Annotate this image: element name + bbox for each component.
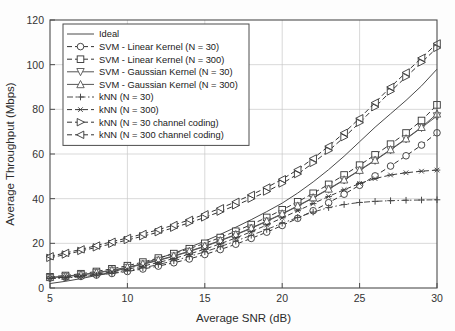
y-tick-label: 60 [32, 148, 44, 160]
x-tick-label: 20 [276, 292, 288, 304]
legend-label: SVM - Linear Kernel (N = 300) [99, 55, 224, 65]
x-tick-label: 25 [354, 292, 366, 304]
y-tick-label: 40 [32, 193, 44, 205]
legend-label: kNN (N = 30 channel coding) [99, 118, 219, 128]
x-tick-label: 15 [199, 292, 211, 304]
chart-figure: 51015202530020406080100120Average SNR (d… [0, 0, 455, 331]
legend-label: SVM - Linear Kernel (N = 30) [99, 42, 219, 52]
y-tick-label: 120 [26, 14, 44, 26]
y-axis-title: Average Throughput (Mbps) [4, 82, 16, 226]
legend-label: SVM - Gaussian Kernel (N = 300) [99, 80, 238, 90]
y-tick-label: 20 [32, 237, 44, 249]
y-tick-label: 80 [32, 103, 44, 115]
legend-label: Ideal [99, 29, 119, 39]
chart-canvas: 51015202530020406080100120Average SNR (d… [0, 0, 455, 331]
x-axis-title: Average SNR (dB) [196, 312, 291, 324]
x-tick-label: 5 [47, 292, 53, 304]
y-tick-label: 100 [26, 59, 44, 71]
x-tick-label: 10 [122, 292, 134, 304]
x-tick-label: 30 [431, 292, 443, 304]
data-marker [77, 56, 84, 63]
legend-label: kNN (N = 30) [99, 92, 154, 102]
data-marker [387, 163, 394, 170]
data-marker [403, 152, 410, 159]
legend-label: SVM - Gaussian Kernel (N = 30) [99, 67, 233, 77]
y-tick-label: 0 [38, 282, 44, 294]
legend: IdealSVM - Linear Kernel (N = 30)SVM - L… [63, 24, 249, 145]
data-marker [418, 142, 425, 149]
data-marker [77, 43, 84, 50]
legend-label: kNN (N = 300) [99, 105, 159, 115]
legend-label: kNN (N = 300 channel coding) [99, 130, 224, 140]
